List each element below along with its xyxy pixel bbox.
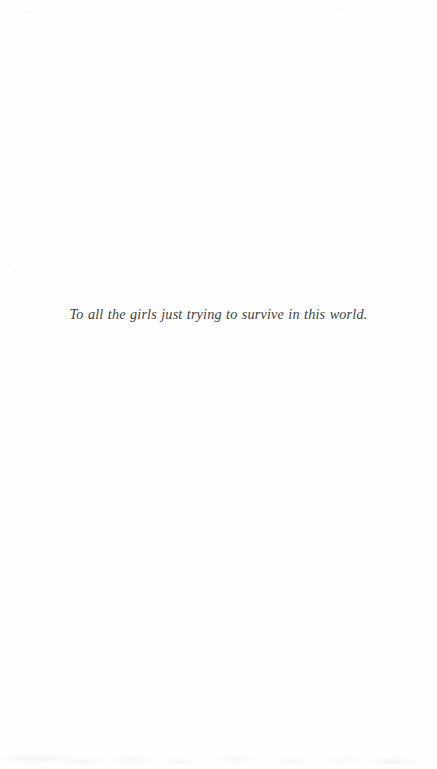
scan-edge-smudge: [0, 723, 437, 769]
paper-grain-texture: [0, 0, 437, 769]
dedication-page: To all the girls just trying to survive …: [0, 0, 437, 769]
dedication-block: To all the girls just trying to survive …: [0, 304, 437, 324]
dedication-text: To all the girls just trying to survive …: [70, 304, 368, 324]
